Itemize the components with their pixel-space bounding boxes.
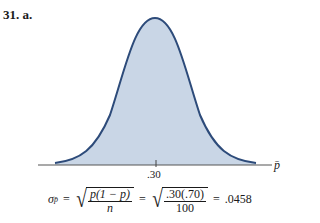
denominator: n <box>107 202 113 215</box>
equals-sign: = <box>213 192 220 207</box>
x-axis-label: p̄ <box>274 158 280 173</box>
numerator: .30(.70) <box>164 188 206 202</box>
sigma-subscript: p̄ <box>54 195 58 204</box>
radical-icon: √ <box>152 184 163 215</box>
sqrt-values: √ .30(.70) 100 <box>151 184 208 215</box>
sqrt-general: √ p(1 − p) n <box>75 184 134 215</box>
fraction-general: p(1 − p) n <box>86 187 134 215</box>
numerator: p(1 − p) <box>88 188 132 202</box>
standard-error-formula: σp̄ = √ p(1 − p) n = √ .30(.70) 100 = .0… <box>48 182 252 216</box>
denominator: 100 <box>176 202 194 215</box>
radical-icon: √ <box>76 184 87 215</box>
equals-sign: = <box>139 192 146 207</box>
fraction-values: .30(.70) 100 <box>162 187 208 215</box>
mean-tick-label: .30 <box>147 168 161 180</box>
curve-fill <box>55 18 256 165</box>
result-value: .0458 <box>225 192 252 207</box>
equals-sign: = <box>63 192 70 207</box>
